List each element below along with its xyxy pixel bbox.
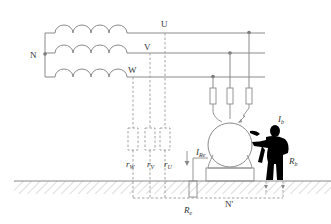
resistor-ru: [160, 128, 170, 150]
phase-lines: [127, 31, 265, 88]
fuses: [210, 88, 252, 122]
fuse-u: [246, 88, 252, 104]
coil-v: [55, 45, 127, 53]
label-phase-u: U: [161, 19, 168, 29]
label-earth-neutral: N': [225, 199, 233, 209]
label-phase-w: W: [128, 65, 137, 75]
label-r-b: Rb: [288, 156, 298, 167]
electrical-diagram: N U V W rW rV rU IRe Re Ib Rb N': [0, 0, 331, 224]
label-phase-v: V: [144, 42, 151, 52]
label-neutral: N: [30, 50, 37, 60]
resistor-rv: [145, 128, 155, 150]
motor-base: [206, 168, 254, 181]
fuse-w: [210, 88, 216, 104]
fault-arrow-icon: [238, 108, 249, 123]
fuse-v: [227, 88, 233, 104]
neutral-node: [43, 52, 47, 56]
label-i-b: Ib: [277, 114, 284, 125]
label-rw: rW: [126, 159, 136, 170]
label-i-re: IRe: [195, 147, 206, 158]
insulation-resistances: [128, 33, 283, 198]
resistor-rw: [128, 128, 138, 150]
coil-u: [55, 25, 127, 33]
label-ru: rU: [164, 159, 173, 170]
label-r-e: Re: [183, 205, 193, 216]
current-arrow-ire-icon: [185, 151, 190, 166]
coil-w: [55, 69, 127, 77]
label-rv: rV: [147, 159, 156, 170]
transformer-windings: [43, 25, 127, 77]
motor-body: [208, 123, 252, 167]
person-silhouette: [250, 125, 289, 180]
